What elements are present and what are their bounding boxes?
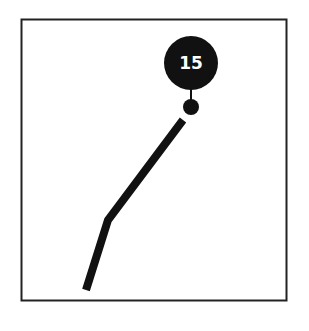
diagram-canvas bbox=[0, 0, 309, 331]
marker-label: 15 bbox=[164, 50, 218, 76]
route-line bbox=[86, 120, 183, 290]
endpoint-dot bbox=[183, 99, 199, 115]
